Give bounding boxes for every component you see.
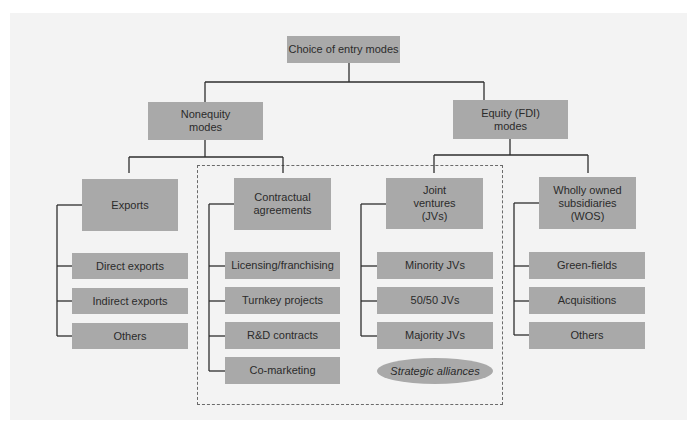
leaf-majority-jvs: Majority JVs (377, 322, 493, 349)
wos-label-line2: subsidiaries (558, 197, 616, 210)
contractual-label-line1: Contractual (254, 191, 310, 204)
node-wholly-owned-subsidiaries: Wholly owned subsidiaries (WOS) (539, 177, 636, 229)
leaf-label: Direct exports (96, 260, 164, 273)
leaf-minority-jvs: Minority JVs (377, 252, 493, 279)
leaf-label: Others (570, 329, 603, 342)
leaf-licensing-franchising: Licensing/franchising (225, 252, 340, 279)
jv-label-line3: (JVs) (422, 210, 448, 223)
exports-label: Exports (111, 199, 148, 212)
leaf-label: Licensing/franchising (231, 259, 334, 272)
strategic-alliances-ellipse: Strategic alliances (377, 358, 493, 384)
node-contractual-agreements: Contractual agreements (234, 178, 331, 230)
jv-label-line2: ventures (413, 197, 455, 210)
node-joint-ventures: Joint ventures (JVs) (386, 178, 483, 229)
leaf-indirect-exports: Indirect exports (72, 288, 188, 314)
root-node-choice-of-entry-modes: Choice of entry modes (287, 36, 400, 63)
strategic-alliances-label: Strategic alliances (390, 365, 479, 378)
contractual-label-line2: agreements (253, 204, 311, 217)
leaf-label: Green-fields (557, 259, 617, 272)
root-label: Choice of entry modes (288, 43, 398, 56)
leaf-label: Turnkey projects (242, 294, 323, 307)
equity-label-line1: Equity (FDI) (481, 107, 540, 120)
leaf-turnkey-projects: Turnkey projects (225, 287, 340, 314)
leaf-green-fields: Green-fields (529, 252, 645, 279)
wos-label-line1: Wholly owned (553, 184, 621, 197)
leaf-label: Minority JVs (405, 259, 465, 272)
leaf-label: Indirect exports (92, 295, 167, 308)
leaf-rd-contracts: R&D contracts (225, 322, 340, 349)
leaf-label: 50/50 JVs (411, 294, 460, 307)
nonequity-label-line2: modes (189, 121, 222, 134)
node-exports: Exports (82, 179, 178, 231)
leaf-label: Majority JVs (405, 329, 465, 342)
leaf-label: R&D contracts (247, 329, 318, 342)
node-equity-fdi-modes: Equity (FDI) modes (453, 100, 568, 139)
leaf-label: Others (113, 330, 146, 343)
wos-label-line3: (WOS) (571, 210, 605, 223)
node-nonequity-modes: Nonequity modes (148, 102, 263, 140)
leaf-direct-exports: Direct exports (72, 253, 188, 279)
jv-label-line1: Joint (423, 184, 446, 197)
equity-label-line2: modes (494, 120, 527, 133)
leaf-50-50-jvs: 50/50 JVs (377, 287, 493, 314)
nonequity-label-line1: Nonequity (181, 108, 231, 121)
leaf-label: Acquisitions (558, 294, 617, 307)
leaf-exports-others: Others (72, 323, 188, 349)
leaf-co-marketing: Co-marketing (225, 357, 340, 384)
leaf-wos-others: Others (529, 322, 645, 349)
leaf-label: Co-marketing (249, 364, 315, 377)
leaf-acquisitions: Acquisitions (529, 287, 645, 314)
